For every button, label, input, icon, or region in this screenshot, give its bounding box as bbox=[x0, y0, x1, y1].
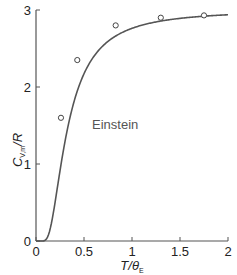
y-axis-title: CV,m/R bbox=[10, 133, 26, 167]
data-point bbox=[113, 23, 118, 28]
chart: 012300.511.52 Einstein CV,m/R T/θE bbox=[0, 0, 237, 275]
curve-label-einstein: Einstein bbox=[92, 117, 138, 132]
x-tick-label: 0.5 bbox=[75, 244, 93, 259]
data-point bbox=[58, 115, 63, 120]
y-tick-label: 0 bbox=[24, 234, 31, 249]
x-tick-label: 2 bbox=[224, 244, 231, 259]
y-tick-label: 2 bbox=[24, 80, 31, 95]
x-axis-title: T/θE bbox=[120, 258, 144, 274]
data-point bbox=[201, 13, 206, 18]
x-tick-label: 1.5 bbox=[171, 244, 189, 259]
data-point bbox=[158, 15, 163, 20]
x-tick-label: 1 bbox=[128, 244, 135, 259]
x-tick-label: 0 bbox=[32, 244, 39, 259]
data-point bbox=[75, 57, 80, 62]
y-tick-label: 3 bbox=[24, 3, 31, 18]
